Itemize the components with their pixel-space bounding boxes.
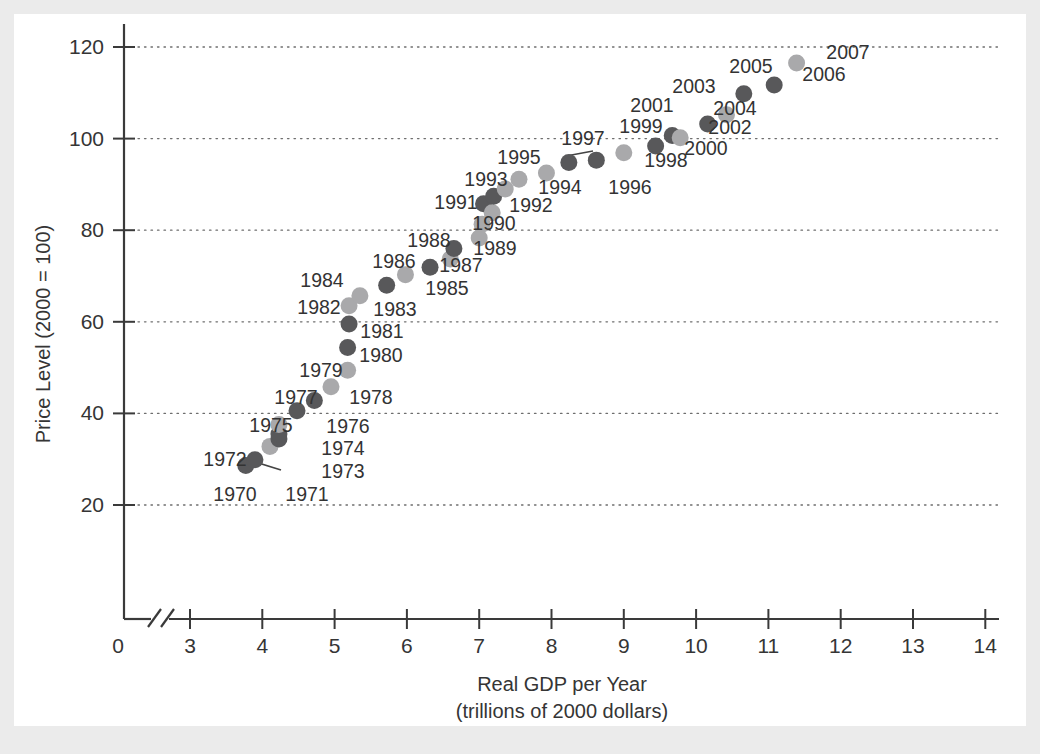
data-point-label-1998: 1998 <box>644 149 687 171</box>
data-point-label-1981: 1981 <box>360 320 403 342</box>
x-axis-tick-label-12: 12 <box>829 634 852 657</box>
data-point-label-1972: 1972 <box>203 448 246 470</box>
data-point-label-1984: 1984 <box>300 269 344 291</box>
data-point-1971[interactable] <box>246 451 263 468</box>
data-point-label-1978: 1978 <box>349 386 392 408</box>
data-point-1986[interactable] <box>422 259 439 276</box>
x-axis-tick-label-13: 13 <box>901 634 924 657</box>
y-axis-tick-label-100: 100 <box>69 127 104 150</box>
scatter-plot: 20406080100120034567891011121314Real GDP… <box>14 14 1026 726</box>
data-point-label-1999: 1999 <box>619 115 662 137</box>
data-point-label-1997: 1997 <box>561 127 604 149</box>
data-point-label-1974: 1974 <box>321 437 365 459</box>
data-point-label-2004: 2004 <box>713 97 757 119</box>
x-axis-subtitle: (trillions of 2000 dollars) <box>456 700 668 722</box>
data-point-label-1979: 1979 <box>299 359 342 381</box>
data-point-label-1970: 1970 <box>213 483 257 505</box>
chart-svg: 20406080100120034567891011121314Real GDP… <box>14 14 1026 726</box>
data-point-1983[interactable] <box>351 287 368 304</box>
data-point-label-1980: 1980 <box>359 344 403 366</box>
data-point-label-2003: 2003 <box>672 75 715 97</box>
data-point-label-1985: 1985 <box>425 277 469 299</box>
data-point-label-1976: 1976 <box>326 415 369 437</box>
data-point-label-1991: 1991 <box>434 191 477 213</box>
data-point-label-1977: 1977 <box>274 386 317 408</box>
data-point-label-1995: 1995 <box>497 146 541 168</box>
data-point-label-2001: 2001 <box>630 94 673 116</box>
data-point-label-1982: 1982 <box>297 296 340 318</box>
data-point-label-1971: 1971 <box>285 483 328 505</box>
x-axis-tick-label-6: 6 <box>401 634 413 657</box>
x-axis-tick-label-4: 4 <box>256 634 268 657</box>
data-point-label-1996: 1996 <box>608 176 651 198</box>
x-axis-tick-label-8: 8 <box>546 634 558 657</box>
data-point-label-1989: 1989 <box>473 237 516 259</box>
data-point-label-1983: 1983 <box>373 298 416 320</box>
y-axis-tick-label-40: 40 <box>81 401 104 424</box>
y-axis-tick-label-80: 80 <box>81 218 104 241</box>
data-point-label-2000: 2000 <box>684 137 728 159</box>
data-point-1984[interactable] <box>378 277 395 294</box>
chart-figure: 20406080100120034567891011121314Real GDP… <box>14 14 1026 726</box>
data-point-label-1993: 1993 <box>464 168 507 190</box>
y-axis-tick-label-120: 120 <box>69 35 104 58</box>
x-axis-tick-label-0: 0 <box>112 634 124 657</box>
data-point-1995[interactable] <box>510 171 527 188</box>
data-point-label-1973: 1973 <box>321 460 364 482</box>
data-point-label-1975: 1975 <box>249 414 293 436</box>
x-axis-tick-label-7: 7 <box>473 634 485 657</box>
data-point-2006[interactable] <box>766 77 783 94</box>
y-axis-title: Price Level (2000 = 100) <box>32 225 54 443</box>
y-axis-tick-label-20: 20 <box>81 493 104 516</box>
data-point-label-2005: 2005 <box>729 55 773 77</box>
x-axis-tick-label-10: 10 <box>684 634 707 657</box>
data-point-label-2002: 2002 <box>708 116 751 138</box>
data-point-1999[interactable] <box>615 144 632 161</box>
data-point-1980[interactable] <box>339 339 356 356</box>
data-point-label-1988: 1988 <box>407 229 450 251</box>
data-point-label-2007: 2007 <box>826 41 869 63</box>
data-point-label-1994: 1994 <box>538 176 582 198</box>
data-point-label-2006: 2006 <box>802 63 845 85</box>
x-axis-title: Real GDP per Year <box>477 673 647 695</box>
data-point-1997[interactable] <box>560 154 577 171</box>
x-axis-tick-label-9: 9 <box>618 634 630 657</box>
y-axis-tick-label-60: 60 <box>81 310 104 333</box>
data-point-1981[interactable] <box>341 316 358 333</box>
data-point-label-1986: 1986 <box>372 250 415 272</box>
x-axis-tick-label-5: 5 <box>329 634 341 657</box>
x-axis-tick-label-3: 3 <box>184 634 196 657</box>
x-axis-tick-label-14: 14 <box>974 634 998 657</box>
x-axis-tick-label-11: 11 <box>757 634 779 657</box>
data-point-1998[interactable] <box>588 152 605 169</box>
